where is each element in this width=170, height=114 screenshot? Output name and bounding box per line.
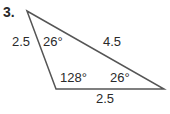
angle-bottom-left-label: 128° bbox=[60, 71, 87, 84]
triangle-figure bbox=[0, 0, 170, 114]
side-bottom-label: 2.5 bbox=[96, 92, 114, 105]
side-left-label: 2.5 bbox=[12, 35, 30, 48]
angle-top-label: 26° bbox=[43, 35, 63, 48]
angle-right-label: 26° bbox=[110, 71, 130, 84]
triangle bbox=[27, 11, 164, 89]
side-hypotenuse-label: 4.5 bbox=[103, 35, 121, 48]
